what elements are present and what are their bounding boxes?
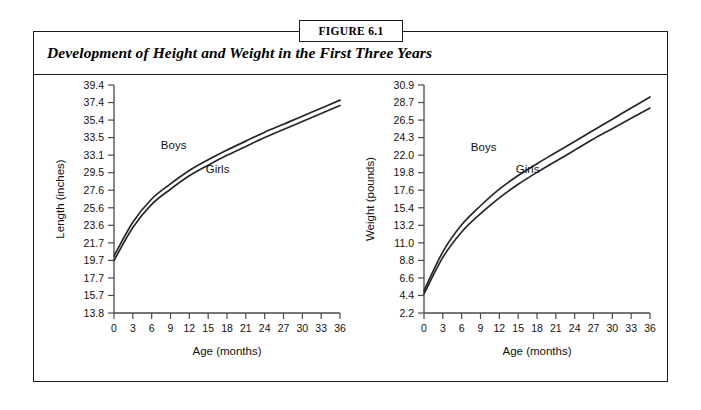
x-tick-label: 18 xyxy=(221,322,233,334)
x-tick-label: 12 xyxy=(183,322,195,334)
chart-weight: 2.24.46.68.811.013.215.417.619.822.024.3… xyxy=(352,75,662,383)
y-tick-label: 15.4 xyxy=(394,202,415,214)
y-tick-label: 25.6 xyxy=(84,202,105,214)
y-axis-title: Length (inches) xyxy=(54,159,66,238)
y-tick-label: 28.7 xyxy=(394,96,415,108)
x-tick-label: 21 xyxy=(550,322,562,334)
charts-area: 13.815.717.719.721.723.625.627.629.533.1… xyxy=(34,75,667,381)
x-tick-label: 24 xyxy=(569,322,581,334)
y-axis-title: Weight (pounds) xyxy=(364,157,376,241)
y-tick-label: 23.6 xyxy=(84,219,105,231)
chart-plot-length-chart: 13.815.717.719.721.723.625.627.629.533.1… xyxy=(42,75,352,383)
y-tick-label: 21.7 xyxy=(84,237,105,249)
y-tick-label: 17.6 xyxy=(394,184,415,196)
y-tick-label: 39.4 xyxy=(84,79,105,91)
x-tick-label: 3 xyxy=(130,322,136,334)
x-axis-title: Age (months) xyxy=(192,345,261,357)
y-tick-label: 27.6 xyxy=(84,184,105,196)
x-tick-label: 33 xyxy=(625,322,637,334)
y-tick-label: 24.3 xyxy=(394,131,415,143)
y-tick-label: 37.4 xyxy=(84,96,105,108)
y-tick-label: 19.8 xyxy=(394,166,415,178)
x-axis-title: Age (months) xyxy=(502,345,571,357)
y-tick-label: 35.4 xyxy=(84,114,105,126)
curve-label-boys: Boys xyxy=(161,139,187,151)
y-tick-label: 19.7 xyxy=(84,254,105,266)
y-tick-label: 4.4 xyxy=(399,289,414,301)
y-tick-label: 17.7 xyxy=(84,272,105,284)
y-tick-label: 22.0 xyxy=(394,149,415,161)
x-tick-label: 36 xyxy=(334,322,346,334)
x-tick-label: 6 xyxy=(459,322,465,334)
y-tick-label: 26.5 xyxy=(394,114,415,126)
x-tick-label: 33 xyxy=(315,322,327,334)
x-tick-label: 27 xyxy=(588,322,600,334)
y-tick-label: 33.5 xyxy=(84,131,105,143)
x-tick-label: 18 xyxy=(531,322,543,334)
y-tick-label: 33.1 xyxy=(84,149,105,161)
y-tick-label: 13.2 xyxy=(394,219,415,231)
figure-container: Development of Height and Weight in the … xyxy=(33,31,668,382)
chart-length: 13.815.717.719.721.723.625.627.629.533.1… xyxy=(42,75,352,383)
curve-girls xyxy=(424,108,650,294)
figure-title: Development of Height and Weight in the … xyxy=(34,44,432,62)
x-tick-label: 30 xyxy=(606,322,618,334)
chart-plot-weight-chart: 2.24.46.68.811.013.215.417.619.822.024.3… xyxy=(352,75,662,383)
x-tick-label: 3 xyxy=(440,322,446,334)
curve-boys xyxy=(114,100,340,256)
x-tick-label: 21 xyxy=(240,322,252,334)
y-tick-label: 8.8 xyxy=(399,254,414,266)
x-tick-label: 9 xyxy=(478,322,484,334)
curve-girls xyxy=(114,105,340,260)
x-tick-label: 0 xyxy=(111,322,117,334)
x-tick-label: 6 xyxy=(149,322,155,334)
x-tick-label: 24 xyxy=(259,322,271,334)
y-tick-label: 15.7 xyxy=(84,289,105,301)
curve-label-boys: Boys xyxy=(471,141,497,153)
x-tick-label: 15 xyxy=(512,322,524,334)
y-tick-label: 29.5 xyxy=(84,166,105,178)
x-tick-label: 12 xyxy=(493,322,505,334)
y-tick-label: 2.2 xyxy=(399,307,414,319)
figure-number-label: FIGURE 6.1 xyxy=(319,25,384,37)
x-tick-label: 15 xyxy=(202,322,214,334)
y-tick-label: 30.9 xyxy=(394,79,415,91)
curve-label-girls: Girls xyxy=(206,163,230,175)
y-tick-label: 11.0 xyxy=(394,237,414,249)
x-tick-label: 27 xyxy=(278,322,290,334)
curve-label-girls: Girls xyxy=(516,163,540,175)
x-tick-label: 36 xyxy=(644,322,656,334)
x-tick-label: 9 xyxy=(168,322,174,334)
x-tick-label: 30 xyxy=(296,322,308,334)
x-tick-label: 0 xyxy=(421,322,427,334)
y-tick-label: 6.6 xyxy=(399,272,414,284)
y-tick-label: 13.8 xyxy=(84,307,105,319)
figure-number-box: FIGURE 6.1 xyxy=(299,20,403,42)
